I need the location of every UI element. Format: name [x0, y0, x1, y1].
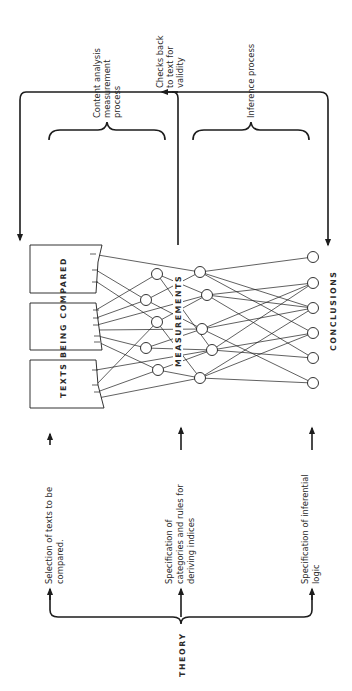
feedback-label: Checks back to text for validity [155, 35, 185, 88]
texts-being-compared-label: TEXTS BEING COMPARED [59, 257, 68, 398]
measurement-node [141, 343, 152, 354]
feedback-branch-line [172, 92, 178, 245]
content-analysis-diagram: Checks back to text for validity Content… [0, 0, 352, 691]
measurement-node [152, 317, 163, 328]
measurement-node [202, 290, 213, 301]
measurement-node [195, 267, 206, 278]
measurements-label: MEASUREMENTS [173, 275, 183, 369]
measurement-node [153, 365, 164, 376]
svg-text:Specification of inferential: Specification of inferential [300, 474, 310, 584]
measurement-node [197, 324, 208, 335]
measurement-node [195, 373, 206, 384]
content-analysis-label: Content analysis measurement process [92, 48, 122, 118]
theory-label: THEORY [178, 632, 187, 677]
svg-text:deriving indices: deriving indices [186, 518, 196, 584]
categories-label: Specification of categories and rules fo… [164, 484, 196, 584]
svg-text:Checks back: Checks back [155, 35, 165, 88]
conclusions-label: CONCLUSIONS [329, 270, 338, 351]
svg-text:CONCLUSIONS: CONCLUSIONS [329, 270, 338, 351]
conclusion-node [308, 252, 319, 263]
measurement-layer-2 [195, 267, 218, 384]
conclusion-node [308, 378, 319, 389]
conclusion-nodes [308, 252, 319, 389]
svg-text:Content analysis: Content analysis [92, 48, 102, 118]
inference-brace [193, 122, 309, 140]
theory-brace [50, 589, 312, 624]
measurement-node [152, 269, 163, 280]
feedback-arrow [20, 92, 328, 245]
measurement-layer-1 [141, 269, 164, 376]
content-analysis-brace [49, 122, 165, 140]
conclusion-node [308, 328, 319, 339]
svg-text:categories and rules for: categories and rules for [175, 484, 185, 584]
svg-text:logic: logic [311, 564, 321, 584]
svg-text:Inference process: Inference process [246, 44, 256, 118]
svg-text:Specification of: Specification of [164, 518, 174, 584]
selection-label: Selection of texts to be compared. [44, 487, 65, 584]
svg-text:Selection of texts to be: Selection of texts to be [44, 487, 54, 584]
svg-text:MEASUREMENTS: MEASUREMENTS [174, 275, 183, 367]
conclusion-node [308, 353, 319, 364]
svg-text:compared.: compared. [55, 539, 65, 584]
svg-text:measurement: measurement [102, 59, 112, 118]
inference-label: Inference process [246, 44, 256, 118]
svg-text:to text for: to text for [165, 46, 175, 88]
inferential-logic-label: Specification of inferential logic [300, 474, 321, 584]
svg-text:THEORY: THEORY [178, 632, 187, 677]
measurement-node [141, 295, 152, 306]
svg-text:validity: validity [175, 57, 185, 88]
conclusion-node [308, 278, 319, 289]
svg-text:TEXTS BEING COMPARED: TEXTS BEING COMPARED [59, 257, 68, 398]
svg-text:process: process [112, 86, 122, 118]
conclusion-node [308, 303, 319, 314]
feedback-loop [20, 92, 328, 245]
measurement-node [207, 345, 218, 356]
